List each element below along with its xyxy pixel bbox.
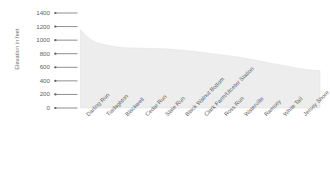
x-axis-tick-label: Jersey Shore (302, 89, 330, 117)
x-axis-tick-label: Ramsey (263, 98, 282, 117)
x-axis-tick-label: Waterville (243, 95, 265, 117)
x-axis-tick-label: Ross Run (223, 95, 245, 117)
x-axis-tick-label: Blackwell (124, 96, 145, 117)
x-axis-tick-label: Slate Run (164, 95, 186, 117)
x-axis-tick-label: White Tail (282, 96, 304, 118)
